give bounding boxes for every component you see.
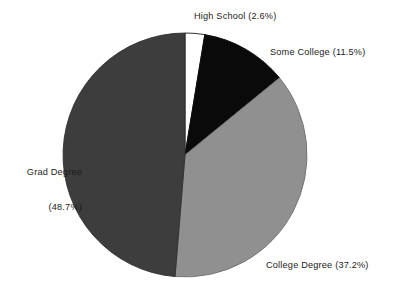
- pie-label-college-degree: College Degree (37.2%): [266, 260, 369, 272]
- pie-label-grad-degree-value: (48.7%): [6, 202, 82, 214]
- pie-slice-group: [63, 33, 307, 277]
- pie-label-some-college: Some College (11.5%): [270, 47, 365, 59]
- pie-label-high-school: High School (2.6%): [194, 11, 276, 23]
- pie-label-grad-degree-name: Grad Degree: [6, 167, 82, 179]
- pie-label-grad-degree: Grad Degree (48.7%): [6, 144, 82, 236]
- pie-chart: High School (2.6%) Some College (11.5%) …: [0, 0, 399, 300]
